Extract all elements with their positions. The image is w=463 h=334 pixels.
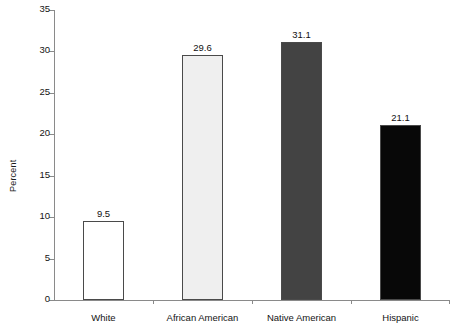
x-axis-category-label: African American: [167, 312, 239, 323]
y-tick-label: 30: [39, 44, 50, 55]
bar[interactable]: 21.1: [380, 125, 421, 300]
bar-value-label: 29.6: [193, 42, 212, 53]
y-axis-line: [54, 10, 55, 300]
y-tick-label: 10: [39, 210, 50, 221]
y-tick-label: 20: [39, 127, 50, 138]
bar-value-label: 21.1: [391, 112, 410, 123]
x-axis-category-label: Native American: [267, 312, 336, 323]
bar[interactable]: 29.6: [182, 55, 223, 300]
x-axis-category-label: White: [91, 312, 115, 323]
x-tick-mark: [449, 300, 450, 304]
x-tick-mark: [153, 300, 154, 304]
bar-value-label: 9.5: [97, 208, 110, 219]
plot-area: 05101520253035 9.529.631.121.1 WhiteAfri…: [54, 10, 450, 300]
y-tick-label: 25: [39, 86, 50, 97]
y-tick-label: 15: [39, 169, 50, 180]
bar[interactable]: 31.1: [281, 42, 322, 300]
x-axis-category-label: Hispanic: [382, 312, 418, 323]
y-tick-label: 35: [39, 3, 50, 14]
y-tick-label: 0: [45, 293, 50, 304]
x-tick-mark: [252, 300, 253, 304]
y-tick-label: 5: [45, 252, 50, 263]
bar-value-label: 31.1: [292, 29, 311, 40]
x-tick-mark: [351, 300, 352, 304]
bar[interactable]: 9.5: [83, 221, 124, 300]
bar-chart: Percent 05101520253035 9.529.631.121.1 W…: [0, 0, 463, 334]
